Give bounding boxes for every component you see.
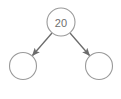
node-group: 20 xyxy=(10,8,113,80)
tree-diagram-canvas: 20 xyxy=(0,0,121,99)
root-node-label: 20 xyxy=(55,17,68,29)
root-node[interactable]: 20 xyxy=(47,8,75,36)
tree-diagram-svg: 20 xyxy=(0,0,121,99)
right-child-node-circle[interactable] xyxy=(86,53,113,80)
left-child-node-circle[interactable] xyxy=(10,53,37,80)
edge-root-to-left-child xyxy=(33,33,53,56)
left-child-node[interactable] xyxy=(10,53,37,80)
edge-root-to-right-child xyxy=(70,33,90,56)
right-child-node[interactable] xyxy=(86,53,113,80)
